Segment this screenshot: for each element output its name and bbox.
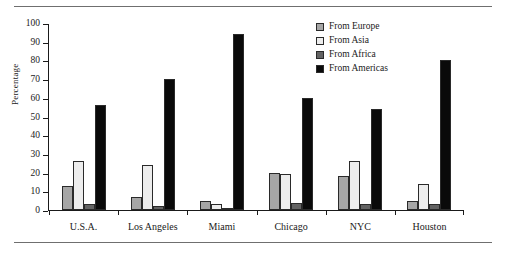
y-tick-label: 30 <box>31 150 41 160</box>
legend-label: From Asia <box>329 36 369 46</box>
y-tick-mark <box>43 80 48 81</box>
y-tick-mark <box>43 61 48 62</box>
legend-item[interactable]: From Europe <box>316 22 388 32</box>
x-tick-mark <box>187 210 188 215</box>
y-tick-label: 0 <box>35 206 40 216</box>
bar[interactable] <box>131 197 142 210</box>
bar[interactable] <box>73 161 84 210</box>
legend-label: From Europe <box>329 22 379 32</box>
x-tick-mark <box>463 210 464 215</box>
x-tick-mark <box>49 210 50 215</box>
y-tick-label: 60 <box>31 94 41 104</box>
x-tick-label: Miami <box>209 221 236 232</box>
bar[interactable] <box>429 204 440 210</box>
y-tick-label: 70 <box>31 75 41 85</box>
bar[interactable] <box>95 105 106 210</box>
y-tick-mark <box>43 136 48 137</box>
bar[interactable] <box>338 176 349 210</box>
bar[interactable] <box>418 184 429 210</box>
bottom-horizontal-rule <box>14 242 492 243</box>
y-tick-label: 90 <box>31 38 41 48</box>
bar[interactable] <box>371 109 382 210</box>
y-tick-mark <box>43 192 48 193</box>
bar[interactable] <box>349 161 360 210</box>
x-tick-label: NYC <box>350 221 371 232</box>
bar-group: Los Angeles <box>118 24 187 210</box>
bar[interactable] <box>211 204 222 210</box>
y-tick-label: 80 <box>31 57 41 67</box>
y-tick-mark <box>43 99 48 100</box>
bar[interactable] <box>233 34 244 210</box>
bar[interactable] <box>84 204 95 210</box>
legend-swatch-icon <box>316 65 324 73</box>
bar-group: Houston <box>395 24 464 210</box>
y-tick-mark <box>43 211 48 212</box>
legend-item[interactable]: From Asia <box>316 36 388 46</box>
y-tick-mark <box>43 43 48 44</box>
legend-swatch-icon <box>316 51 324 59</box>
legend-item[interactable]: From Africa <box>316 50 388 60</box>
bar-chart-figure: Percentage 0102030405060708090100 U.S.A.… <box>0 0 506 255</box>
y-tick-label: 20 <box>31 169 41 179</box>
chart-legend: From EuropeFrom AsiaFrom AfricaFrom Amer… <box>316 22 388 74</box>
bar-group: U.S.A. <box>49 24 118 210</box>
x-tick-label: U.S.A. <box>70 221 98 232</box>
x-tick-mark <box>395 210 396 215</box>
y-tick-mark <box>43 24 48 25</box>
y-tick-label: 40 <box>31 131 41 141</box>
bar[interactable] <box>153 206 164 210</box>
bar[interactable] <box>62 186 73 210</box>
bar[interactable] <box>440 60 451 210</box>
y-tick-label: 10 <box>31 188 41 198</box>
x-tick-label: Los Angeles <box>128 221 178 232</box>
bar[interactable] <box>222 208 233 210</box>
legend-label: From Americas <box>329 64 388 74</box>
bar[interactable] <box>407 201 418 210</box>
x-tick-mark <box>118 210 119 215</box>
x-tick-mark <box>257 210 258 215</box>
y-tick-label: 100 <box>26 19 40 29</box>
plot-area: 0102030405060708090100 U.S.A.Los Angeles… <box>48 24 464 211</box>
bar[interactable] <box>200 201 211 210</box>
y-tick-label: 50 <box>31 113 41 123</box>
bar[interactable] <box>291 203 302 210</box>
bar-groups: U.S.A.Los AngelesMiamiChicagoNYCHouston <box>49 24 464 210</box>
y-tick-mark <box>43 118 48 119</box>
y-axis-title: Percentage <box>10 64 20 105</box>
bar[interactable] <box>280 174 291 210</box>
y-tick-mark <box>43 174 48 175</box>
bar[interactable] <box>269 173 280 210</box>
bar[interactable] <box>360 204 371 210</box>
bar[interactable] <box>302 98 313 210</box>
bar[interactable] <box>164 79 175 210</box>
y-tick-mark <box>43 155 48 156</box>
x-tick-mark <box>326 210 327 215</box>
legend-item[interactable]: From Americas <box>316 64 388 74</box>
legend-label: From Africa <box>329 50 376 60</box>
top-horizontal-rule <box>14 6 492 7</box>
x-tick-label: Chicago <box>274 221 307 232</box>
legend-swatch-icon <box>316 23 324 31</box>
bar[interactable] <box>142 165 153 210</box>
x-tick-label: Houston <box>412 221 446 232</box>
legend-swatch-icon <box>316 37 324 45</box>
bar-group: Miami <box>187 24 256 210</box>
